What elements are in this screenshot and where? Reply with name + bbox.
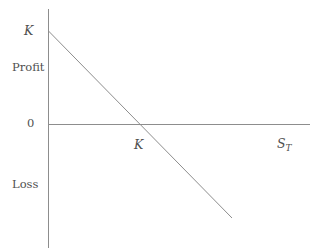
x-axis-label-strike-K: K: [134, 139, 143, 152]
x-axis-symbol: S: [277, 136, 286, 151]
payoff-diagram-figure: K Profit 0 K Loss ST: [0, 0, 320, 252]
loss-region-label: Loss: [12, 179, 38, 191]
y-axis-label-K: K: [24, 25, 33, 38]
x-axis-subscript: T: [286, 143, 292, 153]
x-axis-label-st: ST: [277, 138, 292, 153]
origin-label-zero: 0: [27, 118, 34, 130]
plot-canvas: [0, 0, 320, 252]
profit-region-label: Profit: [12, 62, 44, 74]
